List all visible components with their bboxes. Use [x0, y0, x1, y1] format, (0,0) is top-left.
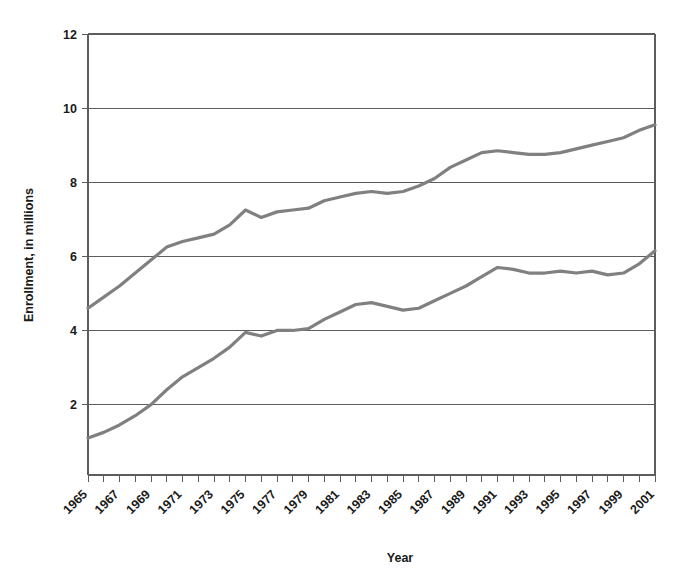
x-tick-label-1991: 1991: [470, 487, 500, 517]
x-tick-label-1983: 1983: [344, 487, 374, 517]
x-axis-tickmarks: [88, 475, 655, 482]
x-tick-label-1985: 1985: [376, 487, 406, 517]
line-chart: 24681012 1965196719691971197319751977197…: [0, 0, 696, 583]
y-tick-label-8: 8: [70, 176, 77, 190]
y-tick-label-12: 12: [63, 28, 77, 42]
x-tick-label-1999: 1999: [596, 487, 626, 517]
y-tick-label-10: 10: [63, 102, 77, 116]
plot-area-background: [88, 34, 655, 475]
y-tick-label-2: 2: [70, 398, 77, 412]
x-tick-label-1967: 1967: [92, 487, 122, 517]
x-tick-label-1987: 1987: [407, 487, 437, 517]
x-tick-label-1969: 1969: [124, 487, 154, 517]
x-tick-label-2001: 2001: [628, 487, 658, 517]
x-tick-label-1973: 1973: [187, 487, 217, 517]
x-tick-label-1977: 1977: [250, 487, 280, 517]
y-axis-title: Enrollment, in millions: [22, 188, 36, 322]
x-tick-label-1989: 1989: [439, 487, 469, 517]
x-tick-label-1971: 1971: [155, 487, 185, 517]
y-tick-label-6: 6: [70, 250, 77, 264]
x-axis-tick-labels: 1965196719691971197319751977197919811983…: [61, 487, 658, 517]
chart-figure: 24681012 1965196719691971197319751977197…: [0, 0, 696, 583]
x-tick-label-1993: 1993: [502, 487, 532, 517]
x-tick-label-1979: 1979: [281, 487, 311, 517]
x-axis-title: Year: [387, 551, 414, 565]
x-tick-label-1997: 1997: [565, 487, 595, 517]
y-axis-tick-labels: 24681012: [63, 28, 77, 413]
y-tick-label-4: 4: [70, 324, 77, 338]
x-tick-label-1995: 1995: [533, 487, 563, 517]
x-tick-label-1965: 1965: [61, 487, 91, 517]
x-tick-label-1981: 1981: [313, 487, 343, 517]
y-axis-tickmarks: [82, 34, 88, 405]
x-tick-label-1975: 1975: [218, 487, 248, 517]
